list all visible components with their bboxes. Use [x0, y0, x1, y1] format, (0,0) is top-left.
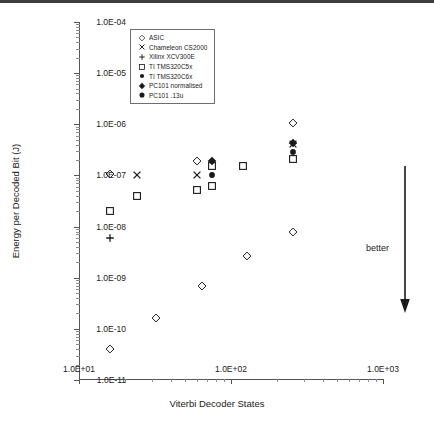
y-tick-minor	[76, 293, 80, 294]
y-tick-minor	[76, 202, 80, 203]
data-point	[238, 161, 249, 172]
y-tick-minor	[76, 344, 80, 345]
x-tick-minor	[171, 379, 172, 382]
square-open-icon	[135, 62, 149, 71]
y-tick-minor	[76, 234, 80, 235]
y-tick-minor	[76, 232, 80, 233]
x-tick-minor	[277, 379, 278, 382]
y-tick-label: 1.0E-09	[96, 273, 126, 283]
data-point	[207, 170, 218, 181]
y-tick-minor	[76, 340, 80, 341]
y-tick-major	[74, 73, 80, 74]
chart-figure: 1.0E-041.0E-051.0E-061.0E-071.0E-081.0E-…	[0, 0, 434, 428]
y-tick-label: 1.0E-05	[96, 68, 126, 78]
diamond-open-icon	[135, 33, 149, 42]
y-tick-minor	[76, 49, 80, 50]
y-tick-major	[74, 175, 80, 176]
data-point	[207, 156, 218, 167]
legend-entry: ASIC	[135, 33, 207, 43]
data-point	[131, 190, 142, 201]
cross-x-icon	[135, 43, 149, 52]
x-tick-major	[231, 379, 232, 384]
y-tick-minor	[76, 180, 80, 181]
legend-entry: Xilinx XCV300E	[135, 52, 207, 62]
x-tick-minor	[304, 379, 305, 382]
x-tick-label: 1.0E+02	[215, 364, 247, 374]
y-tick-minor	[76, 58, 80, 59]
y-tick-minor	[76, 37, 80, 38]
x-tick-minor	[337, 379, 338, 382]
y-tick-minor	[76, 211, 80, 212]
diamond-filled-icon	[135, 81, 149, 90]
y-tick-minor	[76, 145, 80, 146]
y-tick-major	[74, 329, 80, 330]
y-tick-major	[74, 227, 80, 228]
y-tick-label: 1.0E-07	[96, 170, 126, 180]
y-tick-minor	[76, 136, 80, 137]
y-tick-minor	[76, 247, 80, 248]
x-tick-minor	[349, 379, 350, 382]
plus-icon	[135, 52, 149, 61]
data-point	[207, 181, 218, 192]
y-tick-minor	[76, 42, 80, 43]
x-tick-minor	[197, 379, 198, 382]
legend-label: Chameleon CS2000	[149, 44, 207, 51]
x-tick-label: 1.0E+03	[367, 364, 399, 374]
y-tick-minor	[76, 178, 80, 179]
y-tick-minor	[76, 349, 80, 350]
x-tick-minor	[185, 379, 186, 382]
y-tick-minor	[76, 129, 80, 130]
legend-label: Xilinx XCV300E	[149, 53, 195, 60]
data-point	[288, 137, 299, 148]
data-point	[105, 232, 116, 243]
y-tick-minor	[76, 286, 80, 287]
x-tick-minor	[224, 379, 225, 382]
y-tick-minor	[76, 334, 80, 335]
data-point	[192, 156, 203, 167]
y-tick-minor	[76, 109, 80, 110]
y-tick-label: 1.0E-04	[96, 17, 126, 27]
data-point	[288, 226, 299, 237]
y-tick-minor	[76, 84, 80, 85]
better-annotation-label: better	[366, 243, 389, 253]
y-tick-minor	[76, 151, 80, 152]
y-tick-minor	[76, 27, 80, 28]
y-tick-minor	[76, 100, 80, 101]
x-tick-minor	[376, 379, 377, 382]
y-tick-minor	[76, 289, 80, 290]
page-top-band	[0, 0, 434, 3]
y-tick-minor	[76, 33, 80, 34]
y-tick-minor	[76, 238, 80, 239]
data-point	[150, 313, 161, 324]
y-tick-major	[74, 22, 80, 23]
y-tick-minor	[76, 313, 80, 314]
x-axis-title: Viterbi Decoder States	[0, 398, 434, 409]
y-tick-major	[74, 124, 80, 125]
y-tick-label: 1.0E-08	[96, 222, 126, 232]
y-tick-minor	[76, 187, 80, 188]
x-tick-minor	[359, 379, 360, 382]
y-tick-minor	[76, 280, 80, 281]
data-point	[192, 170, 203, 181]
x-tick-minor	[216, 379, 217, 382]
data-point	[105, 206, 116, 217]
y-tick-minor	[76, 304, 80, 305]
y-tick-minor	[76, 298, 80, 299]
y-tick-minor	[76, 81, 80, 82]
x-tick-major	[383, 379, 384, 384]
chart-legend: ASICChameleon CS2000Xilinx XCV300ETI TMS…	[130, 29, 215, 104]
y-tick-minor	[76, 253, 80, 254]
circle-filled-icon	[135, 72, 149, 81]
x-tick-major	[79, 379, 80, 384]
y-tick-minor	[76, 30, 80, 31]
legend-entry: PC101 normalised	[135, 81, 207, 91]
data-point	[242, 251, 253, 262]
legend-label: PC101 .13u	[149, 92, 183, 99]
x-tick-minor	[323, 379, 324, 382]
legend-entry: PC101 .13u	[135, 91, 207, 101]
data-point	[105, 344, 116, 355]
legend-entry: TI TMS320C5x	[135, 62, 207, 72]
circle-large-filled-icon	[135, 91, 149, 100]
legend-label: TI TMS320C6x	[149, 73, 192, 80]
y-tick-label: 1.0E-11	[97, 375, 126, 385]
